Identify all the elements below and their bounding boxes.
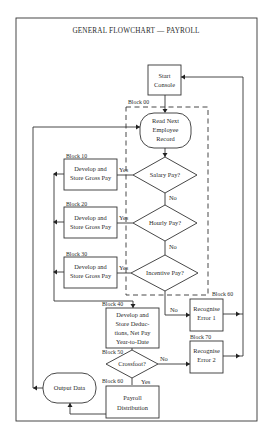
b60-line-1: Payroll [123,394,142,401]
hourly-yes-label: Yes [119,214,129,221]
block-10-gross-pay[interactable]: Develop and Store Gross Pay [64,159,117,190]
read-line-3: Record [156,135,175,142]
block-30-label: Block 30 [66,251,87,257]
output-label: Output Data [54,384,86,391]
block-20-label: Block 20 [66,201,87,207]
err1-line-1: Recognise [193,305,220,312]
block-00-label: Block 00 [128,99,149,105]
block-40-label: Block 40 [102,301,123,307]
block-60-error-label: Block 60 [212,291,233,297]
crossfoot-no-label: No [160,355,168,362]
recognise-error-1[interactable]: Recognise Error 1 [190,299,223,331]
err1-line-2: Error 1 [197,314,215,321]
hourly-label: Hourly Pay? [149,219,181,226]
b40-line-4: Year-to-Date [116,338,149,345]
salary-pay-decision[interactable]: Salary Pay? [133,157,197,193]
crossfoot-label: Crossfoot? [118,360,146,367]
read-employee-record-node[interactable]: Read Next Employee Record [140,113,191,148]
incentive-no-label: No [170,306,178,313]
block-30-gross-pay[interactable]: Develop and Store Gross Pay [64,257,117,288]
block-60-payroll-label: Block 60 [102,378,123,384]
read-line-1: Read Next [152,117,179,124]
block-10-label: Block 10 [66,153,87,159]
b40-line-1: Develop and [116,311,149,318]
start-line-2: Console [154,81,175,88]
salary-yes-label: Yes [119,166,129,173]
b40-line-2: Store Deduc- [116,320,150,327]
b30-line-2: Store Gross Pay [70,272,112,279]
recognise-error-2[interactable]: Recognise Error 2 [190,341,223,373]
hourly-no-label: No [169,243,177,250]
incentive-label: Incentive Pay? [146,269,184,276]
block-70-label: Block 70 [190,334,211,340]
b60-line-2: Distribution [117,404,149,411]
payroll-distribution-node[interactable]: Payroll Distribution [106,386,159,418]
output-data-node[interactable]: Output Data [43,373,96,403]
err2-line-1: Recognise [193,347,220,354]
start-console-node[interactable]: Start Console [148,65,181,95]
start-line-1: Start [158,72,170,79]
b20-line-2: Store Gross Pay [70,223,112,230]
incentive-yes-label: Yes [119,264,129,271]
read-line-2: Employee [153,126,179,133]
b40-line-3: tions, Net Pay [114,329,151,336]
salary-label: Salary Pay? [150,171,181,178]
b10-line-1: Develop and [74,165,107,172]
block-40-deductions[interactable]: Develop and Store Deduc- tions, Net Pay … [106,308,159,348]
err2-line-2: Error 2 [197,356,215,363]
b20-line-1: Develop and [74,214,107,221]
b30-line-1: Develop and [74,263,107,270]
salary-no-label: No [169,194,177,201]
diagram-title: GENERAL FLOWCHART — PAYROLL [72,27,199,35]
b10-line-2: Store Gross Pay [70,174,112,181]
hourly-pay-decision[interactable]: Hourly Pay? [133,205,197,241]
block-50-label: Block 50 [102,349,123,355]
block-20-gross-pay[interactable]: Develop and Store Gross Pay [64,207,117,238]
crossfoot-yes-label: Yes [141,378,151,385]
incentive-pay-decision[interactable]: Incentive Pay? [131,255,198,291]
